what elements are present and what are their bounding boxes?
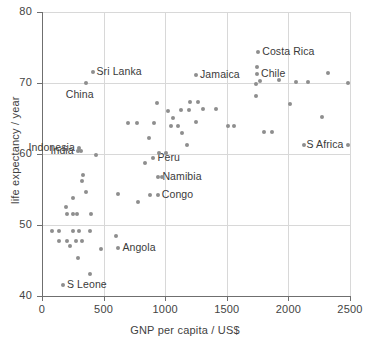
data-point-label: Namibia bbox=[162, 170, 201, 182]
data-point bbox=[89, 212, 93, 216]
data-point bbox=[320, 115, 324, 119]
data-point bbox=[306, 80, 310, 84]
x-axis-tick-label: 2000 bbox=[266, 303, 310, 315]
data-point bbox=[152, 121, 156, 125]
y-axis-tick bbox=[37, 83, 42, 84]
data-point bbox=[81, 173, 85, 177]
y-axis-tick-label: 40 bbox=[0, 289, 32, 301]
x-axis-tick bbox=[165, 296, 166, 301]
data-point-label: Costa Rica bbox=[262, 45, 314, 57]
data-point bbox=[346, 143, 350, 147]
data-point bbox=[346, 81, 350, 85]
data-point bbox=[151, 156, 155, 160]
x-axis-tick bbox=[288, 296, 289, 301]
data-point bbox=[88, 229, 92, 233]
data-point bbox=[255, 65, 259, 69]
data-point bbox=[76, 256, 80, 260]
data-point bbox=[68, 244, 72, 248]
data-point bbox=[136, 200, 140, 204]
data-point bbox=[126, 121, 130, 125]
data-point bbox=[226, 124, 230, 128]
data-point bbox=[57, 239, 61, 243]
data-point bbox=[254, 94, 258, 98]
data-point bbox=[114, 234, 118, 238]
data-point-label: Congo bbox=[162, 188, 193, 200]
grid-line-vertical bbox=[350, 12, 351, 296]
x-axis-tick bbox=[350, 296, 351, 301]
data-point bbox=[166, 109, 170, 113]
data-point bbox=[179, 108, 183, 112]
y-axis-title: life expectancy / year bbox=[9, 96, 21, 204]
y-axis-tick bbox=[37, 296, 42, 297]
data-point-label: Chile bbox=[261, 67, 285, 79]
x-axis-tick-label: 2500 bbox=[328, 303, 370, 315]
data-point bbox=[74, 239, 78, 243]
x-axis-tick-label: 1000 bbox=[143, 303, 187, 315]
data-point bbox=[61, 283, 65, 287]
data-point bbox=[65, 212, 69, 216]
y-axis-tick bbox=[37, 225, 42, 226]
data-point bbox=[194, 120, 198, 124]
data-point-label: India bbox=[50, 144, 73, 156]
data-point bbox=[91, 70, 95, 74]
data-point bbox=[201, 107, 205, 111]
data-point bbox=[94, 153, 98, 157]
data-point bbox=[255, 72, 259, 76]
data-point-label: Jamaica bbox=[200, 68, 240, 80]
data-point bbox=[180, 131, 184, 135]
x-axis-tick-label: 500 bbox=[82, 303, 126, 315]
data-point-label: Angola bbox=[122, 241, 155, 253]
data-point bbox=[77, 229, 81, 233]
data-point bbox=[84, 81, 88, 85]
data-point bbox=[185, 143, 189, 147]
x-axis-tick-label: 0 bbox=[20, 303, 64, 315]
x-axis-title: GNP per capita / US$ bbox=[0, 324, 370, 336]
x-axis-tick-label: 1500 bbox=[205, 303, 249, 315]
data-point bbox=[232, 124, 236, 128]
data-point-label: S Leone bbox=[67, 278, 107, 290]
data-point bbox=[176, 124, 180, 128]
data-point bbox=[99, 247, 103, 251]
data-point bbox=[171, 116, 175, 120]
y-axis-tick-label: 80 bbox=[0, 5, 32, 17]
data-point-label: S Africa bbox=[307, 138, 344, 150]
data-point bbox=[84, 190, 88, 194]
data-point bbox=[196, 100, 200, 104]
data-point bbox=[326, 71, 330, 75]
x-axis-tick bbox=[42, 296, 43, 301]
data-point bbox=[214, 107, 218, 111]
data-point bbox=[156, 193, 160, 197]
data-point bbox=[50, 229, 54, 233]
y-axis-tick bbox=[37, 154, 42, 155]
data-point bbox=[71, 229, 75, 233]
data-point bbox=[75, 212, 79, 216]
data-point bbox=[80, 179, 84, 183]
data-point bbox=[148, 193, 152, 197]
data-point bbox=[254, 82, 258, 86]
y-axis-tick bbox=[37, 12, 42, 13]
data-point bbox=[71, 196, 75, 200]
data-point bbox=[143, 161, 147, 165]
data-point bbox=[135, 121, 139, 125]
y-axis-tick-label: 50 bbox=[0, 218, 32, 230]
data-point bbox=[155, 101, 159, 105]
data-point bbox=[169, 124, 173, 128]
x-axis-tick bbox=[227, 296, 228, 301]
y-axis-line bbox=[42, 12, 43, 296]
y-axis-tick-label: 70 bbox=[0, 76, 32, 88]
grid-line-horizontal bbox=[42, 83, 350, 84]
x-axis-line bbox=[42, 296, 350, 297]
data-point bbox=[187, 108, 191, 112]
grid-line-horizontal bbox=[42, 12, 350, 13]
data-point bbox=[262, 130, 266, 134]
data-point bbox=[160, 175, 164, 179]
data-point bbox=[57, 229, 61, 233]
data-point bbox=[294, 80, 298, 84]
data-point-label: Sri Lanka bbox=[97, 65, 142, 77]
data-point bbox=[116, 192, 120, 196]
data-point bbox=[79, 149, 83, 153]
data-point bbox=[147, 136, 151, 140]
data-point bbox=[188, 100, 192, 104]
data-point-label: China bbox=[66, 88, 94, 100]
data-point bbox=[256, 50, 260, 54]
